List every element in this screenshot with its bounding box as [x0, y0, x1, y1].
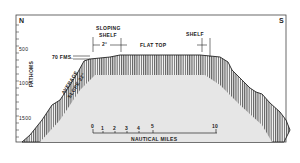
compass-south: S — [279, 17, 284, 24]
scale-tick-5: 5 — [151, 123, 154, 129]
y-tick-1500: 1500 — [19, 115, 31, 121]
scale-tick-2: 2 — [113, 125, 116, 131]
shelf-angle-label: 2° — [102, 41, 107, 47]
flat-top-label: FLAT TOP — [140, 42, 166, 48]
y-tick-500: 500 — [19, 46, 28, 52]
scale-tick-10: 10 — [212, 123, 218, 129]
shelf-label: SHELF — [186, 31, 204, 37]
scale-tick-0: 0 — [91, 123, 94, 129]
depth-mark-label: 70 FMS. — [52, 54, 73, 60]
y-axis-label: FATHOMS — [28, 61, 34, 87]
scale-tick-3: 3 — [125, 125, 128, 131]
scale-tick-4: 4 — [137, 125, 140, 131]
compass-north: N — [19, 17, 24, 24]
sloping-shelf-label-1: SLOPING — [96, 25, 121, 31]
sloping-shelf-label-2: SHELF — [99, 32, 117, 38]
scale-tick-1: 1 — [101, 125, 104, 131]
scale-label: NAUTICAL MILES — [131, 136, 177, 142]
